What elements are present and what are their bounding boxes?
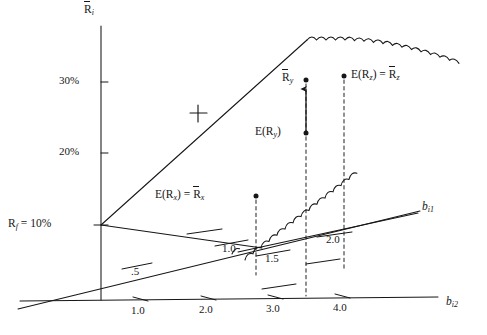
figure-canvas: Ri 30% 20% Rf = 10% bi1 bi2 .5 1.0 1.5 2… (0, 0, 487, 335)
dot-x (254, 194, 259, 199)
point-realized-y-label: Ry (282, 72, 293, 85)
b-i1-tick-label-1-0: 1.0 (222, 243, 236, 254)
point-expected-y-label: E(Ry) (255, 126, 281, 139)
diagram-svg (0, 0, 487, 335)
b-i1-tick-1-5b (262, 284, 296, 289)
b-i1-tick-2-0b (306, 259, 340, 264)
b-i2-axis-label: bi2 (446, 296, 458, 309)
dot-realized-y (304, 78, 309, 83)
b-i1-tick-label-0-5: .5 (131, 266, 139, 277)
b-i2-tick-label-1-0: 1.0 (131, 305, 145, 316)
b-i2-tick-label-2-0: 2.0 (199, 304, 213, 315)
scallop-top-edge (307, 37, 459, 63)
dot-expected-y (304, 131, 309, 136)
lower-plane-edge (101, 225, 262, 248)
return-axis-label: Ri (84, 4, 94, 17)
b-i1-tick-upper-a (187, 229, 222, 234)
point-x-label: E(Rx) = Rx (155, 189, 204, 202)
tick-label-20: 20% (59, 146, 79, 157)
b-i2-tick-label-3-0: 3.0 (266, 303, 280, 314)
point-z-label: E(Rz) = Rz (351, 69, 400, 82)
tick-label-30: 30% (59, 75, 79, 86)
b-i1-tick-label-1-5: 1.5 (265, 253, 279, 264)
risk-free-label: Rf = 10% (8, 218, 51, 231)
b-i1-axis-label: bi1 (422, 201, 434, 214)
b-i1-tick-label-2-0: 2.0 (326, 234, 340, 245)
b-i2-axis-line (20, 297, 438, 301)
dot-z (342, 74, 347, 79)
b-i2-tick-label-4-0: 4.0 (333, 302, 347, 313)
